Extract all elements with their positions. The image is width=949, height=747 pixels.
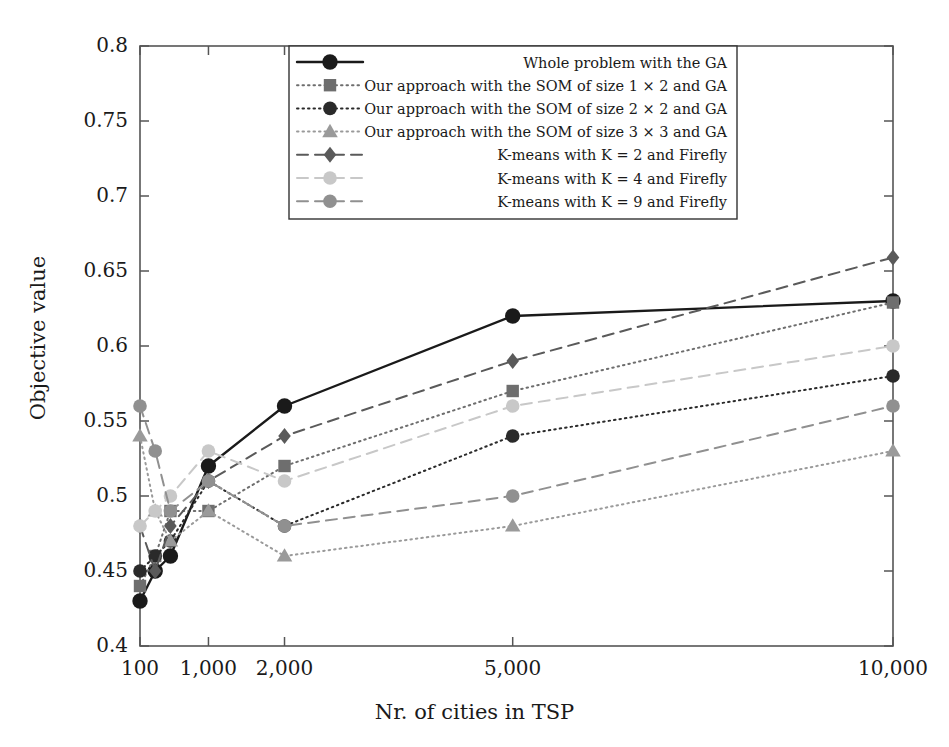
figure-container: Whole problem with the GAOur approach wi… — [0, 0, 949, 747]
data-point-marker — [278, 460, 290, 472]
data-point-marker — [201, 458, 216, 473]
data-point-marker — [133, 564, 147, 578]
data-point-marker — [505, 308, 520, 323]
x-axis-title: Nr. of cities in TSP — [0, 700, 949, 724]
data-point-marker — [148, 504, 162, 518]
y-tick-label: 0.4 — [38, 633, 128, 657]
data-point-marker — [278, 519, 292, 533]
data-point-marker — [132, 428, 148, 441]
y-tick-label: 0.8 — [38, 33, 128, 57]
data-point-marker — [506, 353, 519, 369]
x-tick-label: 2,000 — [225, 656, 345, 680]
data-point-marker — [324, 79, 336, 91]
data-point-marker — [887, 249, 900, 265]
y-tick-label: 0.6 — [38, 333, 128, 357]
legend-entry-label: K-means with K = 4 and Firefly — [497, 171, 728, 187]
data-point-marker — [278, 428, 291, 444]
data-point-marker — [322, 54, 337, 69]
data-point-marker — [886, 369, 900, 383]
x-tick-label: 5,000 — [453, 656, 573, 680]
y-tick-label: 0.55 — [38, 408, 128, 432]
legend-entry-label: K-means with K = 2 and Firefly — [497, 147, 728, 163]
data-point-marker — [506, 489, 520, 503]
data-point-marker — [133, 519, 147, 533]
data-point-marker — [506, 429, 520, 443]
data-point-marker — [133, 399, 147, 413]
legend-entry-label: Our approach with the SOM of size 3 × 3 … — [364, 124, 727, 140]
data-point-marker — [887, 296, 899, 308]
data-point-marker — [885, 443, 901, 456]
legend-entry-label: Whole problem with the GA — [523, 55, 727, 71]
data-point-marker — [202, 444, 216, 458]
series-line — [140, 301, 893, 601]
data-point-marker — [323, 102, 337, 116]
data-point-marker — [164, 504, 178, 518]
data-point-marker — [505, 518, 521, 531]
data-point-marker — [277, 398, 292, 413]
data-point-marker — [323, 194, 337, 208]
data-point-marker — [202, 474, 216, 488]
series-1 — [132, 293, 900, 608]
data-point-marker — [886, 339, 900, 353]
y-tick-label: 0.5 — [38, 483, 128, 507]
data-point-marker — [148, 444, 162, 458]
legend-box: Whole problem with the GAOur approach wi… — [289, 46, 737, 219]
legend-entry-label: K-means with K = 9 and Firefly — [497, 194, 728, 210]
data-point-marker — [278, 474, 292, 488]
y-tick-label: 0.65 — [38, 258, 128, 282]
data-point-marker — [886, 399, 900, 413]
chart-canvas: Whole problem with the GAOur approach wi… — [0, 0, 949, 747]
data-point-marker — [134, 580, 146, 592]
series-line — [140, 303, 893, 587]
y-tick-label: 0.7 — [38, 183, 128, 207]
data-point-marker — [132, 593, 147, 608]
data-point-marker — [323, 171, 337, 185]
data-point-marker — [506, 385, 518, 397]
legend-entry-label: Our approach with the SOM of size 1 × 2 … — [364, 78, 727, 94]
series-2 — [134, 296, 899, 592]
y-tick-label: 0.75 — [38, 108, 128, 132]
data-point-marker — [506, 399, 520, 413]
x-tick-label: 10,000 — [833, 656, 949, 680]
data-point-marker — [163, 548, 178, 563]
y-tick-label: 0.45 — [38, 558, 128, 582]
legend-entry-label: Our approach with the SOM of size 2 × 2 … — [364, 101, 727, 117]
series-layer — [132, 249, 901, 608]
